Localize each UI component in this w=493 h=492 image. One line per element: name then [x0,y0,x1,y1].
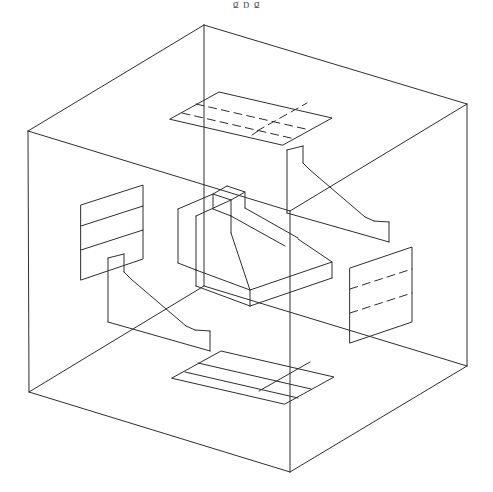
top-view-plane-hidden-line-3 [196,104,310,130]
top-view-plane-hidden-line-4 [257,103,307,131]
upper-right-profile-bottom-edge [287,213,389,242]
right-view-plane-hidden-line-2 [350,293,412,313]
glass-box [28,25,467,472]
center-object-wall-bottom-left [178,263,196,270]
bottom-view-plane [172,351,334,404]
bottom-view-plane-line-2 [198,363,311,389]
center-object [178,186,332,306]
right-view-plane-outline [350,247,412,343]
technical-figure: g p g [0,0,493,492]
center-object-inner-edge-2 [213,209,231,216]
glass-box-edge-vertical-left [28,131,29,392]
upper-right-profile-notch-edge [365,217,374,221]
lower-left-profile [108,254,210,351]
lower-left-profile-notch-edge [186,326,195,330]
upper-right-profile-right-top-edge [374,221,389,222]
isometric-drawing-canvas [0,0,493,492]
upper-right-profile-top-edge [287,146,303,150]
center-object-wall-top-left [178,194,213,209]
center-object-base-front-edge [196,286,250,306]
center-object-slope-to-base [231,233,250,290]
glass-box-edge-top-back-right [204,25,467,104]
lower-left-profile-right-top-edge [195,330,210,331]
upper-right-profile-slope-edge [303,163,310,170]
lower-left-profile-bottom-edge [108,322,210,351]
center-object-slope-lower-edge [231,216,285,246]
center-object-tab-top-face [213,186,245,200]
top-view-plane-outline [170,92,332,145]
glass-box-edge-top-right-front [290,104,467,211]
lower-left-profile-top-edge [108,254,124,258]
glass-box-edge-top-left-front [28,131,290,211]
glass-box-edge-bottom-left-back [29,286,204,392]
glass-box-edge-bottom-right-back [204,286,467,366]
left-view-plane [81,185,143,280]
glass-box-edge-bottom-right-front [290,366,467,472]
lower-left-profile-diagonal-edge [131,279,186,326]
center-object-base-top-face [196,239,332,290]
top-view-plane-edge-tick-left [252,131,258,135]
lower-left-profile-slope-edge [124,272,131,279]
left-view-plane-line-1 [81,206,143,226]
center-object-base-right-front-edge [250,278,332,306]
left-view-plane-line-2 [81,230,143,250]
top-view-plane [170,92,332,145]
right-view-plane-hidden-line-1 [350,269,412,289]
bottom-view-plane-outline [172,351,334,404]
right-view-plane [350,247,412,343]
glass-box-edge-bottom-left-front [29,392,290,472]
